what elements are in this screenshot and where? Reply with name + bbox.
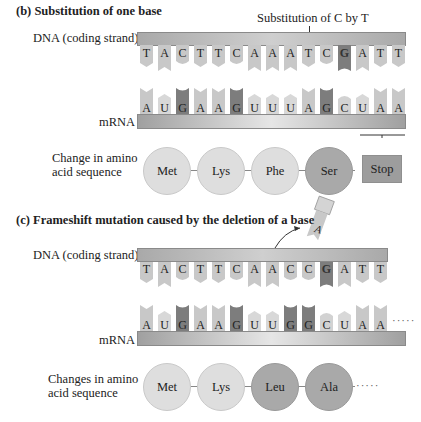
dna-base: C — [230, 263, 243, 275]
dna-base: C — [176, 263, 189, 275]
amino-acid-phe: Phe — [251, 147, 299, 195]
mrna-base: U — [266, 319, 279, 331]
dna-base: A — [284, 47, 297, 59]
dna-base: T — [140, 47, 153, 59]
dna-base: C — [176, 47, 189, 59]
dna-base: T — [140, 263, 153, 275]
mrna-base: U — [338, 319, 351, 331]
dna-base: A — [248, 263, 261, 275]
amino-acid-ser: Ser — [305, 147, 353, 195]
mrna-base: G — [176, 319, 189, 331]
mrna-base: U — [284, 102, 297, 114]
mrna-base: A — [356, 319, 369, 331]
mrna-base: G — [320, 102, 333, 114]
dna-label-c: DNA (coding strand) — [33, 248, 139, 263]
mrna-base: U — [158, 319, 171, 331]
amino-acid-met: Met — [143, 363, 191, 411]
dna-base: T — [356, 263, 369, 275]
dna-base: A — [158, 263, 171, 275]
dna-base-substituted: T — [302, 47, 315, 59]
dna-base: T — [194, 263, 207, 275]
amino-acid-lys: Lys — [197, 147, 245, 195]
amino-acid-met: Met — [143, 147, 191, 195]
mrna-base: A — [302, 102, 315, 114]
mrna-base: G — [230, 102, 243, 114]
dna-base: A — [356, 47, 369, 59]
dna-base: C — [320, 47, 333, 59]
base-tabs-svg — [0, 0, 421, 422]
aa-label-b: Change in amino acid sequence — [52, 151, 137, 179]
mrna-base: A — [374, 102, 387, 114]
mrna-strand-c — [137, 331, 406, 346]
mrna-base: G — [284, 319, 297, 331]
mrna-base: U — [266, 102, 279, 114]
amino-acid-leu: Leu — [251, 363, 299, 411]
dna-base: T — [212, 47, 225, 59]
mrna-base: U — [248, 319, 261, 331]
dna-base: A — [338, 263, 351, 275]
amino-acid-lys: Lys — [197, 363, 245, 411]
mrna-continuation-dots: ····· — [392, 314, 415, 326]
aa-label-line2: acid sequence — [52, 165, 137, 179]
mrna-base: C — [338, 102, 351, 114]
dna-strand-c — [137, 248, 388, 262]
dna-base: C — [230, 47, 243, 59]
amino-acid-ala: Ala — [305, 363, 353, 411]
dna-base: A — [266, 47, 279, 59]
mrna-base: U — [158, 102, 171, 114]
mrna-base: A — [212, 319, 225, 331]
mrna-base: G — [302, 319, 315, 331]
mrna-base: A — [194, 319, 207, 331]
dna-base: C — [284, 263, 297, 275]
aa-label-c: Changes in amino acid sequence — [48, 372, 138, 400]
mrna-base: A — [194, 102, 207, 114]
dna-base: A — [158, 47, 171, 59]
aa-label-line2: acid sequence — [48, 386, 138, 400]
dna-base: A — [248, 47, 261, 59]
dna-base: T — [194, 47, 207, 59]
dna-base: T — [212, 263, 225, 275]
mrna-base: G — [230, 319, 243, 331]
stop-codon-box: Stop — [362, 155, 402, 183]
mrna-base: A — [212, 102, 225, 114]
mrna-strand-b — [137, 114, 406, 129]
mrna-base: A — [374, 319, 387, 331]
mrna-base: A — [140, 102, 153, 114]
mrna-base: U — [248, 102, 261, 114]
dna-base: G — [320, 263, 333, 275]
dna-base: G — [338, 47, 351, 59]
mrna-label-b: mRNA — [99, 115, 135, 130]
aa-continuation-dots: ····· — [356, 379, 379, 391]
dna-base: C — [302, 263, 315, 275]
panel-c-title: (c) Frameshift mutation caused by the de… — [16, 213, 314, 228]
dna-base: A — [266, 263, 279, 275]
aa-label-line1: Changes in amino — [48, 372, 138, 386]
dna-base: T — [374, 263, 387, 275]
mrna-base: G — [176, 102, 189, 114]
mrna-base: A — [140, 319, 153, 331]
dna-base: T — [374, 47, 387, 59]
mrna-base: U — [356, 102, 369, 114]
aa-label-line1: Change in amino — [52, 151, 137, 165]
dna-base: T — [392, 47, 405, 59]
mrna-label-c: mRNA — [99, 333, 135, 348]
mrna-base: A — [392, 102, 405, 114]
mrna-base: C — [320, 319, 333, 331]
